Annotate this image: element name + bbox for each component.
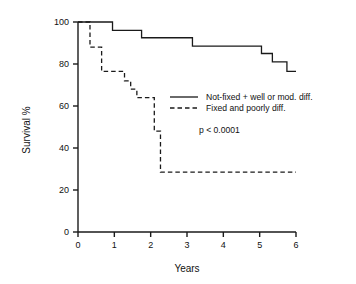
y-tick-label: 0 <box>64 227 69 237</box>
survival-curve-chart: 020406080100 0123456 Survival % Years No… <box>0 0 356 284</box>
p-value-annotation: p < 0.0001 <box>199 125 240 135</box>
y-axis-title-group: Survival % <box>21 106 32 153</box>
y-tick-label: 40 <box>59 143 69 153</box>
x-axis-ticks: 0123456 <box>75 232 298 250</box>
y-tick-label: 100 <box>54 17 69 27</box>
x-tick-label: 6 <box>293 240 298 250</box>
legend-label-1: Not-fixed + well or mod. diff. <box>206 92 313 102</box>
x-tick-label: 4 <box>221 240 226 250</box>
x-tick-label: 1 <box>112 240 117 250</box>
figure-container: 020406080100 0123456 Survival % Years No… <box>0 0 356 284</box>
x-tick-label: 2 <box>148 240 153 250</box>
y-tick-label: 20 <box>59 185 69 195</box>
y-axis-title: Survival % <box>21 106 32 153</box>
x-tick-label: 3 <box>184 240 189 250</box>
series-line-1 <box>78 22 296 71</box>
legend-label-2: Fixed and poorly diff. <box>206 103 286 113</box>
x-tick-label: 0 <box>75 240 80 250</box>
legend: Not-fixed + well or mod. diff.Fixed and … <box>170 92 313 113</box>
y-axis-ticks: 020406080100 <box>54 17 78 237</box>
y-tick-label: 60 <box>59 101 69 111</box>
x-axis-title: Years <box>174 263 199 274</box>
x-tick-label: 5 <box>257 240 262 250</box>
y-tick-label: 80 <box>59 59 69 69</box>
